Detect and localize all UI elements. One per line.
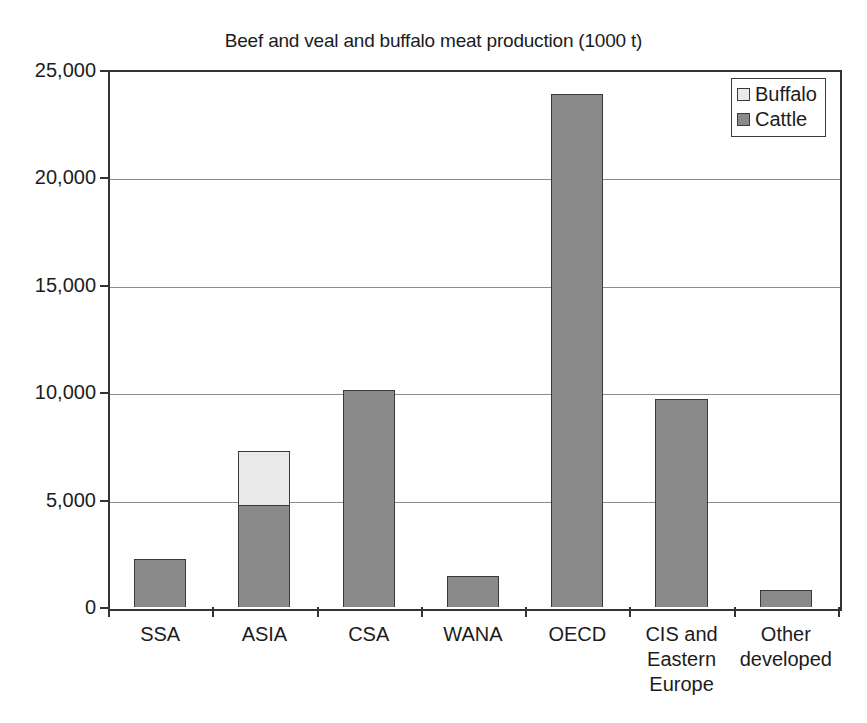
x-axis-tick-mark (629, 607, 631, 617)
x-axis-tick-mark (838, 607, 840, 617)
legend-swatch-icon (737, 113, 750, 126)
x-axis-category-label: OECD (525, 622, 629, 647)
x-axis-category-label: ASIA (212, 622, 316, 647)
bar-stack[interactable] (655, 399, 707, 607)
x-axis-tick-mark (212, 607, 214, 617)
bar-group[interactable] (629, 70, 733, 607)
bar-group[interactable] (421, 70, 525, 607)
bar-stack[interactable] (238, 451, 290, 607)
bar-segment-cattle[interactable] (655, 399, 707, 607)
bar-group[interactable] (108, 70, 212, 607)
legend-swatch-icon (737, 88, 750, 101)
legend-item[interactable]: Buffalo (737, 82, 817, 107)
bar-stack[interactable] (447, 576, 499, 607)
bar-segment-buffalo[interactable] (238, 451, 290, 505)
x-axis-tick-mark (734, 607, 736, 617)
x-axis-category-label: Otherdeveloped (734, 622, 838, 672)
bar-group[interactable] (525, 70, 629, 607)
bar-stack[interactable] (343, 390, 395, 607)
bar-group[interactable] (317, 70, 421, 607)
x-axis-tick-mark (525, 607, 527, 617)
bar-group[interactable] (212, 70, 316, 607)
y-axis-tick-marks (0, 70, 110, 607)
legend-item[interactable]: Cattle (737, 107, 817, 132)
bar-segment-cattle[interactable] (238, 505, 290, 607)
x-axis-category-label: CIS andEasternEurope (629, 622, 733, 697)
x-axis-category-label: SSA (108, 622, 212, 647)
bar-segment-cattle[interactable] (760, 590, 812, 607)
x-axis-tick-marks (108, 607, 838, 619)
chart-legend: BuffaloCattle (731, 78, 826, 137)
bars-layer (108, 70, 838, 607)
bar-stack[interactable] (134, 559, 186, 607)
legend-label: Buffalo (755, 83, 817, 106)
chart-title: Beef and veal and buffalo meat productio… (0, 30, 867, 52)
bar-segment-cattle[interactable] (551, 94, 603, 607)
bar-segment-cattle[interactable] (134, 559, 186, 607)
x-axis-tick-mark (108, 607, 110, 617)
x-axis-tick-mark (317, 607, 319, 617)
x-axis-tick-mark (421, 607, 423, 617)
chart-container: Beef and veal and buffalo meat productio… (0, 0, 867, 723)
bar-segment-cattle[interactable] (343, 390, 395, 607)
bar-segment-cattle[interactable] (447, 576, 499, 607)
bar-stack[interactable] (551, 94, 603, 607)
legend-label: Cattle (755, 108, 807, 131)
x-axis-category-label: CSA (317, 622, 421, 647)
x-axis-labels: SSAASIACSAWANAOECDCIS andEasternEuropeOt… (108, 622, 838, 722)
bar-group[interactable] (734, 70, 838, 607)
bar-stack[interactable] (760, 590, 812, 607)
x-axis-category-label: WANA (421, 622, 525, 647)
